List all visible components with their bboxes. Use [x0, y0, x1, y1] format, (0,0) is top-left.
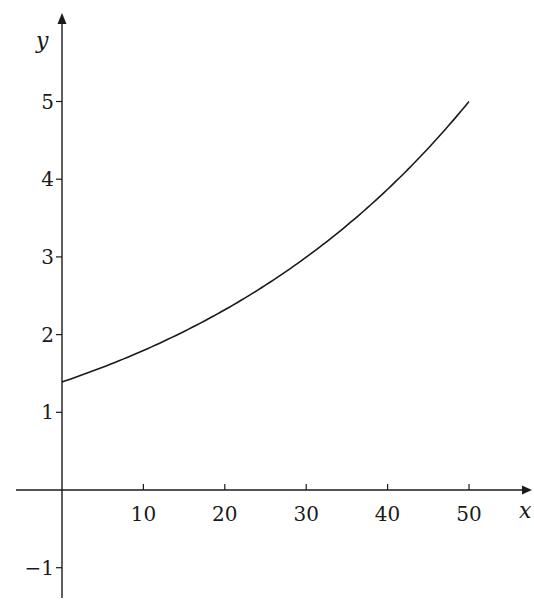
x-axis-label: x [519, 498, 532, 523]
y-tick-label: 2 [41, 323, 54, 347]
y-tick-label: 4 [41, 167, 54, 191]
axes [16, 22, 524, 598]
y-tick-label: 5 [41, 90, 54, 114]
x-tick-label: 40 [375, 502, 400, 526]
y-axis-label: y [35, 28, 49, 53]
y-tick-label: −1 [25, 556, 54, 580]
x-tick-label: 20 [212, 502, 237, 526]
chart: 1020304050 −112345 x y [0, 0, 534, 606]
y-tick-label: 3 [41, 245, 54, 269]
x-axis-arrow-icon [522, 486, 532, 495]
y-ticks: −112345 [25, 90, 62, 580]
x-tick-label: 10 [131, 502, 156, 526]
y-tick-label: 1 [41, 400, 54, 424]
x-tick-label: 30 [293, 502, 318, 526]
x-tick-label: 50 [456, 502, 481, 526]
y-axis-arrow-icon [58, 13, 67, 24]
data-curve [62, 102, 469, 383]
